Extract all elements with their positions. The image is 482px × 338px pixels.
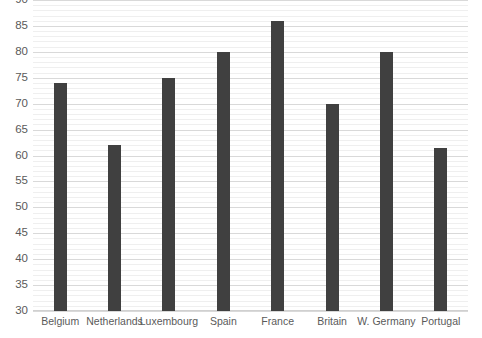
gridline <box>33 78 468 79</box>
bar <box>380 52 393 311</box>
gridline <box>33 181 468 182</box>
minor-gridline <box>33 213 468 214</box>
minor-gridline <box>33 254 468 255</box>
minor-gridline <box>33 93 468 94</box>
minor-gridline <box>33 109 468 110</box>
minor-gridline <box>33 135 468 136</box>
bar <box>326 104 339 311</box>
y-tick-label: 50 <box>0 202 28 214</box>
bar <box>434 148 447 311</box>
minor-gridline <box>33 192 468 193</box>
minor-gridline <box>33 161 468 162</box>
x-tick-label: Britain <box>317 316 347 328</box>
minor-gridline <box>33 98 468 99</box>
minor-gridline <box>33 176 468 177</box>
x-tick-label: France <box>261 316 294 328</box>
y-tick-label: 65 <box>0 124 28 136</box>
minor-gridline <box>33 140 468 141</box>
minor-gridline <box>33 249 468 250</box>
minor-gridline <box>33 295 468 296</box>
gridline <box>33 233 468 234</box>
y-tick-label: 75 <box>0 72 28 84</box>
bar <box>217 52 230 311</box>
gridline <box>33 207 468 208</box>
minor-gridline <box>33 306 468 307</box>
minor-gridline <box>33 280 468 281</box>
minor-gridline <box>33 73 468 74</box>
minor-gridline <box>33 150 468 151</box>
y-tick-label: 55 <box>0 176 28 188</box>
minor-gridline <box>33 171 468 172</box>
minor-gridline <box>33 16 468 17</box>
x-tick-label: Portugal <box>421 316 460 328</box>
minor-gridline <box>33 36 468 37</box>
minor-gridline <box>33 218 468 219</box>
plot-area <box>33 0 468 311</box>
minor-gridline <box>33 270 468 271</box>
minor-gridline <box>33 124 468 125</box>
y-tick-label: 45 <box>0 228 28 240</box>
minor-gridline <box>33 244 468 245</box>
bar <box>162 78 175 311</box>
minor-gridline <box>33 238 468 239</box>
bar <box>54 83 67 311</box>
x-tick-label: Spain <box>210 316 237 328</box>
y-tick-label: 90 <box>0 0 28 6</box>
minor-gridline <box>33 119 468 120</box>
y-tick-label: 35 <box>0 279 28 291</box>
minor-gridline <box>33 67 468 68</box>
minor-gridline <box>33 10 468 11</box>
minor-gridline <box>33 41 468 42</box>
minor-gridline <box>33 5 468 6</box>
x-tick-label: Belgium <box>41 316 79 328</box>
gridline <box>33 156 468 157</box>
y-tick-label: 30 <box>0 305 28 317</box>
minor-gridline <box>33 145 468 146</box>
gridline <box>33 259 468 260</box>
gridline <box>33 104 468 105</box>
y-tick-label: 60 <box>0 150 28 162</box>
gridline <box>33 26 468 27</box>
minor-gridline <box>33 290 468 291</box>
gridline <box>33 311 468 312</box>
minor-gridline <box>33 301 468 302</box>
y-tick-label: 40 <box>0 253 28 265</box>
y-tick-label: 80 <box>0 46 28 58</box>
y-tick-label: 85 <box>0 20 28 32</box>
minor-gridline <box>33 62 468 63</box>
minor-gridline <box>33 83 468 84</box>
minor-gridline <box>33 197 468 198</box>
gridline <box>33 52 468 53</box>
bar <box>271 21 284 311</box>
minor-gridline <box>33 264 468 265</box>
gridline <box>33 285 468 286</box>
minor-gridline <box>33 275 468 276</box>
minor-gridline <box>33 202 468 203</box>
bar-chart: 3035404550556065707580859095 BelgiumNeth… <box>0 0 482 338</box>
minor-gridline <box>33 114 468 115</box>
bar <box>108 145 121 311</box>
x-tick-label: W. Germany <box>357 316 415 328</box>
minor-gridline <box>33 21 468 22</box>
minor-gridline <box>33 31 468 32</box>
y-tick-label: 70 <box>0 98 28 110</box>
gridline <box>33 130 468 131</box>
minor-gridline <box>33 88 468 89</box>
gridline <box>33 0 468 1</box>
y-axis: 3035404550556065707580859095 <box>0 0 28 311</box>
x-tick-label: Netherlands <box>86 316 143 328</box>
minor-gridline <box>33 187 468 188</box>
minor-gridline <box>33 223 468 224</box>
minor-gridline <box>33 47 468 48</box>
minor-gridline <box>33 228 468 229</box>
x-tick-label: Luxembourg <box>140 316 198 328</box>
minor-gridline <box>33 166 468 167</box>
x-axis: BelgiumNetherlandsLuxembourgSpainFranceB… <box>33 313 468 338</box>
minor-gridline <box>33 57 468 58</box>
